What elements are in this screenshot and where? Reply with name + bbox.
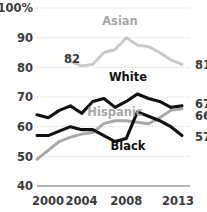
series-label-hispanic: Hispanic xyxy=(87,105,143,119)
series-label-asian: Asian xyxy=(102,14,138,28)
x-tick-2008: 2008 xyxy=(110,194,142,208)
y-tick-40: 40 xyxy=(17,179,33,193)
y-axis-tick-labels: 405060708090100% xyxy=(0,1,33,193)
y-tick-50: 50 xyxy=(17,150,33,164)
y-tick-80: 80 xyxy=(17,61,33,75)
x-tick-2013: 2013 xyxy=(162,194,194,208)
line-chart: 405060708090100% 2000200420082013 828167… xyxy=(0,0,207,212)
y-tick-90: 90 xyxy=(17,31,33,45)
series-line-asian xyxy=(70,38,182,66)
chart-canvas: 405060708090100% 2000200420082013 828167… xyxy=(0,0,207,212)
x-axis-tick-labels: 2000200420082013 xyxy=(32,194,194,208)
x-tick-2000: 2000 xyxy=(32,194,64,208)
series-label-white: White xyxy=(109,70,147,84)
value-label-66: 66 xyxy=(195,109,207,123)
data-series-lines xyxy=(37,38,182,160)
value-label-57: 57 xyxy=(195,130,207,144)
y-tick-60: 60 xyxy=(17,120,33,134)
value-label-81: 81 xyxy=(195,58,207,72)
series-label-black: Black xyxy=(111,139,146,153)
x-tick-2004: 2004 xyxy=(66,194,98,208)
y-tick-70: 70 xyxy=(17,90,33,104)
y-tick-100: 100% xyxy=(0,1,33,15)
value-label-82: 82 xyxy=(64,52,80,66)
